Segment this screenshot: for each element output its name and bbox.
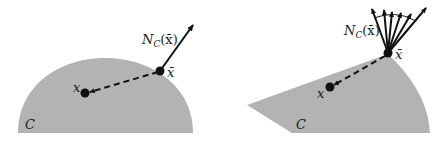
label-x: x bbox=[317, 86, 325, 101]
point-x bbox=[326, 83, 335, 92]
label-set-C: C bbox=[25, 117, 35, 132]
label-normal-cone: NC(x̄) bbox=[343, 23, 380, 40]
label-set-C: C bbox=[296, 117, 306, 132]
right-panel: x̄ x C NC(x̄) bbox=[247, 8, 430, 133]
label-normal-cone: NC(x̄) bbox=[141, 32, 178, 49]
left-panel: x̄ x C NC(x̄) bbox=[18, 25, 193, 133]
normal-cone-diagram: x̄ x C NC(x̄) x̄ x C NC(x̄) bbox=[0, 0, 448, 143]
label-x-bar: x̄ bbox=[395, 47, 403, 62]
point-x bbox=[81, 89, 90, 98]
label-x-bar: x̄ bbox=[167, 65, 175, 80]
projection-point-x-bar bbox=[384, 49, 393, 58]
label-x: x bbox=[73, 80, 81, 95]
convex-set-with-corner bbox=[247, 54, 430, 133]
projection-point-x-bar bbox=[156, 67, 165, 76]
